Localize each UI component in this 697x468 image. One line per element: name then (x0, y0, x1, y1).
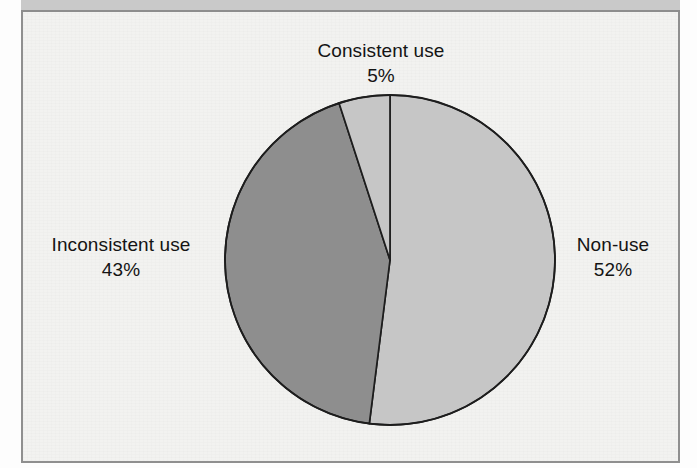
pie-label-consistent-use-name: Consistent use (286, 38, 476, 63)
pie-label-consistent-use: Consistent use 5% (286, 38, 476, 88)
pie-label-non-use-percent: 52% (548, 257, 678, 282)
pie-chart: Consistent use 5% Non-use 52% Inconsiste… (0, 0, 697, 468)
pie-label-inconsistent-use-percent: 43% (28, 257, 214, 282)
pie-label-non-use-name: Non-use (548, 232, 678, 257)
pie-label-inconsistent-use: Inconsistent use 43% (28, 232, 214, 282)
pie-label-inconsistent-use-name: Inconsistent use (28, 232, 214, 257)
pie-label-non-use: Non-use 52% (548, 232, 678, 282)
pie-slice-non-use[interactable] (369, 95, 555, 425)
scanned-page: Consistent use 5% Non-use 52% Inconsiste… (0, 0, 697, 468)
pie-label-consistent-use-percent: 5% (286, 63, 476, 88)
